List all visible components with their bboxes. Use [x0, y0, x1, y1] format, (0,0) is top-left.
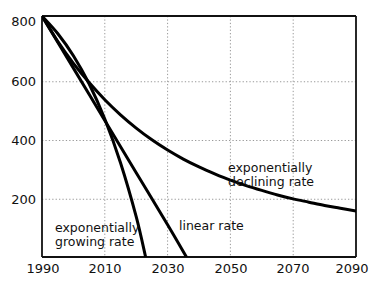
annotation-exponentially-growing-rate: exponentially growing rate [55, 221, 139, 249]
ytick-label-400: 400 [0, 133, 36, 148]
annotation-declining-line1: exponentially [228, 161, 314, 175]
xtick-label-2050: 2050 [202, 261, 260, 276]
ytick-label-800: 800 [0, 14, 36, 29]
annotation-growing-line2: growing rate [55, 235, 139, 249]
annotation-linear-line1: linear rate [179, 219, 244, 233]
annotation-exponentially-declining-rate: exponentially declining rate [228, 161, 314, 189]
xtick-label-2010: 2010 [76, 261, 134, 276]
xtick-label-1990: 1990 [14, 261, 72, 276]
annotation-declining-line2: declining rate [228, 175, 314, 189]
ytick-label-600: 600 [0, 74, 36, 89]
xtick-label-2070: 2070 [264, 261, 322, 276]
annotation-growing-line1: exponentially [55, 221, 139, 235]
xtick-label-2030: 2030 [139, 261, 197, 276]
annotation-linear-rate: linear rate [179, 219, 244, 233]
chart-figure: 800 600 400 200 1990 2010 2030 2050 2070… [0, 0, 378, 288]
ytick-label-200: 200 [0, 192, 36, 207]
xtick-label-2090: 2090 [327, 261, 377, 276]
